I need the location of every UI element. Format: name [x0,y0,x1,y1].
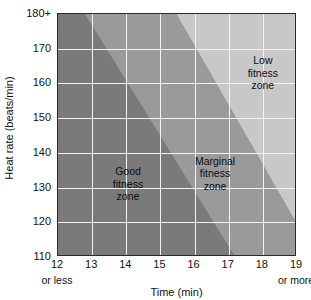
gridline-vertical [126,14,127,255]
gridline-horizontal [58,222,295,223]
gridline-vertical [160,14,161,255]
y-tick-label: 120 [33,215,51,227]
y-axis-title-text: Heat rate (beats/min) [3,76,15,179]
zones-svg [58,14,295,255]
fitness-zone-chart: Heat rate (beats/min) 180+17016015014013… [0,0,311,300]
x-axis-title: Time (min) [57,286,296,298]
x-tick-label: 19 [290,258,302,270]
gridline-horizontal [58,153,295,154]
y-tick-label: 150 [33,111,51,123]
x-tick-label: 14 [119,258,131,270]
gridline-vertical [195,14,196,255]
x-tick-label: 13 [85,258,97,270]
plot-area: GoodfitnesszoneMarginalfitnesszoneLowfit… [57,13,296,256]
gridline-vertical [92,14,93,255]
gridline-vertical [229,14,230,255]
gridline-vertical [263,14,264,255]
x-tick-label: 15 [153,258,165,270]
gridline-horizontal [58,83,295,84]
y-axis-tick-labels: 180+170160150140130120110 [18,13,54,256]
gridline-horizontal [58,118,295,119]
gridline-horizontal [58,49,295,50]
x-tick-label: 17 [222,258,234,270]
x-axis-tick-labels: 1213141516171819 [57,258,296,274]
y-axis-title: Heat rate (beats/min) [0,0,18,256]
y-tick-label: 170 [33,42,51,54]
x-tick-label: 18 [256,258,268,270]
y-tick-label: 130 [33,181,51,193]
x-axis-endnote-left: or less [42,274,73,286]
y-tick-label: 140 [33,146,51,158]
x-tick-label: 12 [51,258,63,270]
y-tick-label: 160 [33,76,51,88]
y-tick-label: 180+ [26,7,51,19]
x-tick-label: 16 [187,258,199,270]
x-axis-endnote-right: or more [278,274,311,286]
y-tick-label: 110 [33,250,51,262]
gridline-horizontal [58,188,295,189]
